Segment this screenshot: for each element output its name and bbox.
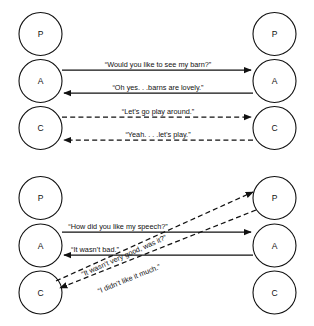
right-adult-label-2: A — [272, 241, 278, 251]
message-barn-answer: “Oh yes. . .barns are lovely.” — [112, 83, 204, 92]
message-speech-answer: “It wasn’t bad.” — [71, 245, 119, 254]
right-person-ego-states-top: P A C — [253, 13, 296, 150]
left-adult-label: A — [38, 76, 44, 86]
right-parent-label-2: P — [272, 193, 278, 203]
complementary-transaction-diagram: P A C P A C “Would you like to see my ba… — [19, 13, 296, 150]
message-barn-question: “Would you like to see my barn?” — [105, 60, 212, 69]
left-child-label: C — [37, 123, 43, 133]
message-speech-question: “How did you like my speech?” — [68, 222, 168, 231]
left-person-ego-states-top: P A C — [19, 13, 62, 150]
right-adult-label: A — [272, 76, 278, 86]
right-child-label-2: C — [271, 288, 277, 298]
left-parent-label-2: P — [38, 193, 44, 203]
right-person-ego-states-bottom: P A C — [253, 177, 296, 315]
left-parent-label: P — [38, 29, 44, 39]
left-child-label-2: C — [37, 288, 43, 298]
left-person-ego-states-bottom: P A C — [19, 177, 62, 315]
message-play-invite: “Let’s go play around.” — [122, 107, 195, 116]
ulterior-transaction-diagram: P A C P A C “How did you like my speech?… — [19, 177, 296, 315]
left-adult-label-2: A — [38, 241, 44, 251]
transactional-analysis-figure: P A C P A C “Would you like to see my ba… — [0, 0, 314, 326]
right-parent-label: P — [272, 29, 278, 39]
right-child-label: C — [271, 123, 277, 133]
message-play-accept: “Yeah. . . .let’s play.” — [125, 130, 191, 139]
